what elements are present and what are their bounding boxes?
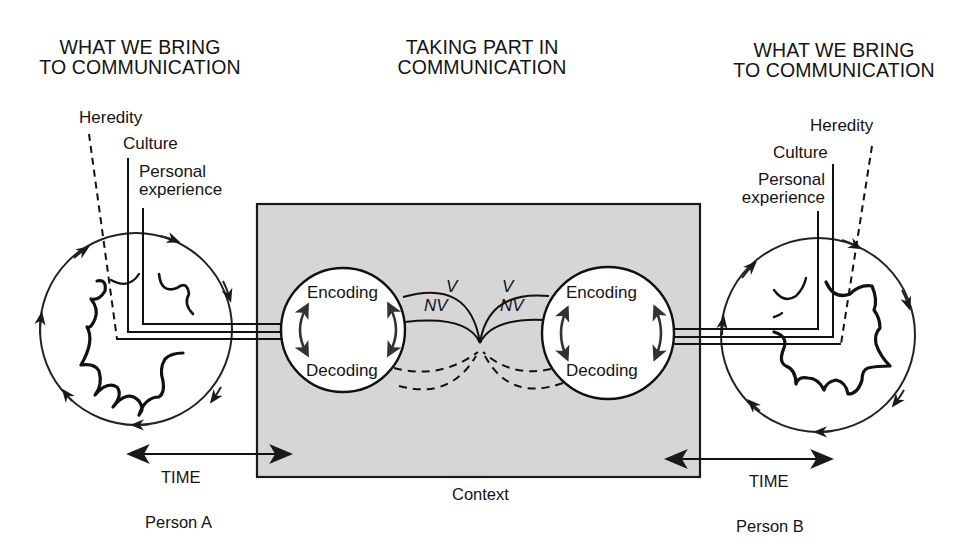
person-a-self-circle xyxy=(40,233,232,425)
person-a-culture-label: Culture xyxy=(123,135,178,153)
person-b-culture-label: Culture xyxy=(773,144,828,162)
channel-nv-label-left: NV xyxy=(424,297,448,315)
heading-center-line-2: COMMUNICATION xyxy=(371,57,593,77)
person-a-time-label: TIME xyxy=(161,469,200,486)
person-b-heredity-label: Heredity xyxy=(810,117,873,135)
context-label: Context xyxy=(452,486,509,503)
person-a-self-shape xyxy=(81,274,193,415)
person-a-decoding-label: Decoding xyxy=(306,362,378,380)
person-a-name: Person A xyxy=(145,514,212,531)
personal-experience-line-2: experience xyxy=(139,181,222,199)
personal-experience-line-1: Personal xyxy=(722,171,825,189)
person-a-heredity-label: Heredity xyxy=(79,109,142,127)
person-b-personal-experience-label: Personal experience xyxy=(722,171,825,207)
person-b-decoding-label: Decoding xyxy=(566,362,638,380)
person-a-encoding-label: Encoding xyxy=(307,284,378,302)
heading-left: WHAT WE BRING TO COMMUNICATION xyxy=(34,37,246,78)
heading-right: WHAT WE BRING TO COMMUNICATION xyxy=(724,40,944,81)
person-b-name: Person B xyxy=(736,518,804,535)
heading-right-line-1: WHAT WE BRING xyxy=(724,40,944,60)
communication-model-diagram: WHAT WE BRING TO COMMUNICATION TAKING PA… xyxy=(0,0,957,560)
heading-right-line-2: TO COMMUNICATION xyxy=(724,60,944,80)
heading-center-line-1: TAKING PART IN xyxy=(371,37,593,57)
heading-left-line-2: TO COMMUNICATION xyxy=(34,57,246,77)
personal-experience-line-2: experience xyxy=(722,189,825,207)
heading-left-line-1: WHAT WE BRING xyxy=(34,37,246,57)
diagram-graphics xyxy=(0,0,957,560)
person-b-encoding-label: Encoding xyxy=(566,284,637,302)
channel-v-label-right: V xyxy=(502,278,513,296)
channel-nv-label-right: NV xyxy=(500,297,524,315)
person-b-time-label: TIME xyxy=(749,473,788,490)
person-a-personal-experience-label: Personal experience xyxy=(139,163,222,199)
heading-center: TAKING PART IN COMMUNICATION xyxy=(371,37,593,78)
channel-v-label-left: V xyxy=(446,278,457,296)
personal-experience-line-1: Personal xyxy=(139,163,222,181)
